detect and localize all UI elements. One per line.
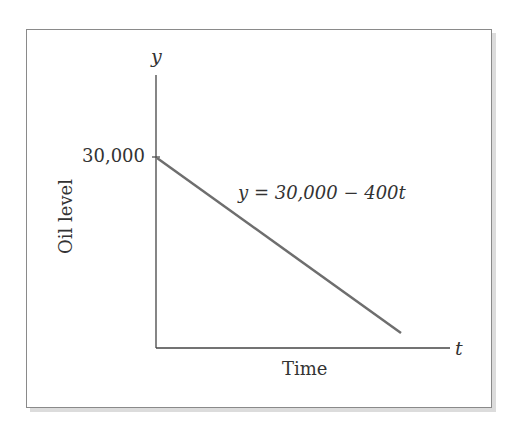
y-axis-symbol: y: [151, 45, 162, 67]
chart-plot: [0, 0, 522, 430]
y-axis-label: Oil level: [55, 170, 76, 264]
equation-annotation: y = 30,000 − 400t: [238, 182, 406, 203]
x-axis-label: Time: [282, 358, 327, 379]
t-axis-symbol: t: [455, 337, 463, 359]
y-tick-label: 30,000: [82, 145, 145, 166]
